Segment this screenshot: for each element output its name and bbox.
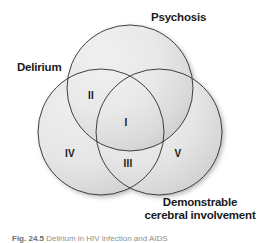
- figure-caption-text: Delirium in HIV infection and AIDS: [46, 234, 167, 243]
- venn-circle-group: [38, 25, 222, 195]
- region-label-iv: IV: [59, 148, 81, 159]
- set-label-psychosis: Psychosis: [151, 11, 206, 24]
- region-label-iii: III: [117, 158, 139, 169]
- figure-caption: Fig. 24.5 Delirium in HIV infection and …: [12, 234, 262, 243]
- figure-caption-number: Fig. 24.5: [12, 234, 44, 243]
- region-label-v: V: [167, 148, 189, 159]
- figure-container: Psychosis Delirium Demonstrable cerebral…: [0, 0, 266, 243]
- region-label-ii: II: [80, 90, 102, 101]
- region-label-i: I: [115, 117, 137, 128]
- circle-top-psychosis: [67, 25, 193, 151]
- set-label-delirium: Delirium: [17, 61, 61, 74]
- set-label-demonstrable-line1: Demonstrable: [138, 196, 262, 209]
- set-label-demonstrable-cerebral-involvement: Demonstrable cerebral involvement: [138, 196, 262, 221]
- set-label-demonstrable-line2: cerebral involvement: [138, 209, 262, 222]
